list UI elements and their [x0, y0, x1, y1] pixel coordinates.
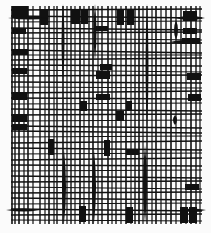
- black-block: [40, 9, 48, 25]
- black-block: [12, 68, 27, 74]
- black-block: [71, 9, 80, 24]
- black-block: [187, 73, 201, 80]
- vertical-spindle: [62, 4, 65, 80]
- black-block: [96, 26, 108, 31]
- black-block: [12, 124, 27, 130]
- black-block: [127, 9, 134, 25]
- black-block: [48, 139, 54, 155]
- horizontal-line: [11, 114, 202, 115]
- black-block: [80, 101, 87, 111]
- horizontal-line: [11, 214, 202, 215]
- vertical-spindle: [174, 20, 178, 40]
- horizontal-line: [11, 181, 202, 182]
- black-block: [12, 92, 27, 100]
- black-block: [126, 207, 133, 223]
- black-block: [183, 28, 197, 34]
- horizontal-line: [11, 43, 202, 44]
- black-block: [12, 6, 28, 18]
- black-block: [104, 140, 110, 156]
- black-block: [12, 49, 28, 55]
- horizontal-line: [11, 82, 202, 83]
- black-block: [117, 9, 124, 25]
- horizontal-line: [11, 9, 202, 10]
- black-block: [96, 94, 110, 100]
- black-block: [126, 101, 132, 111]
- black-block: [12, 114, 27, 122]
- black-block: [96, 71, 110, 79]
- black-block: [116, 111, 124, 121]
- abstract-grid-artwork: [0, 0, 211, 233]
- black-block: [81, 9, 88, 24]
- black-block: [185, 184, 199, 190]
- horizontal-line: [11, 32, 202, 33]
- horizontal-line: [11, 165, 202, 166]
- black-block: [188, 94, 201, 101]
- black-block: [12, 28, 26, 34]
- horizontal-line: [11, 192, 202, 193]
- black-block: [100, 64, 112, 70]
- black-block: [79, 206, 86, 222]
- black-block: [126, 150, 139, 155]
